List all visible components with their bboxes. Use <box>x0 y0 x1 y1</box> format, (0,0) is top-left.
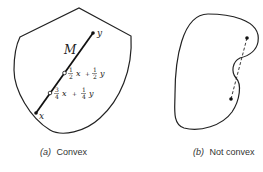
set-label-M: M <box>63 43 77 57</box>
svg-text:2: 2 <box>93 73 97 80</box>
svg-text:3: 3 <box>55 86 59 93</box>
convexity-diagram: M y x 1 2 x + 1 2 y 3 4 x + 1 4 y (a <box>0 0 263 172</box>
label-y: y <box>96 28 103 38</box>
svg-text:+: + <box>85 70 90 77</box>
point-midpoint <box>63 71 67 75</box>
svg-text:1: 1 <box>82 86 86 93</box>
point-lower <box>229 97 233 101</box>
svg-text:1: 1 <box>93 66 97 73</box>
point-x <box>34 111 38 115</box>
svg-text:y: y <box>88 89 94 98</box>
svg-text:2: 2 <box>69 73 73 80</box>
svg-text:x: x <box>76 69 81 78</box>
svg-text:4: 4 <box>82 93 86 100</box>
quarter-point-label: 3 4 x + 1 4 y <box>54 86 94 100</box>
svg-text:+: + <box>72 90 77 97</box>
svg-text:y: y <box>99 69 105 78</box>
point-y <box>91 31 95 35</box>
svg-text:x: x <box>62 89 67 98</box>
point-quarter <box>48 91 52 95</box>
nonconvex-figure: (b) Not convex <box>175 14 259 157</box>
label-x: x <box>39 111 44 121</box>
caption-a: (a) Convex <box>40 147 88 157</box>
nonconvex-set-boundary <box>175 14 259 129</box>
midpoint-label: 1 2 x + 1 2 y <box>68 66 105 80</box>
point-upper <box>245 36 249 40</box>
convex-figure: M y x 1 2 x + 1 2 y 3 4 x + 1 4 y (a <box>14 8 131 157</box>
svg-text:1: 1 <box>69 66 73 73</box>
svg-text:4: 4 <box>55 93 59 100</box>
caption-b: (b) Not convex <box>193 147 255 157</box>
